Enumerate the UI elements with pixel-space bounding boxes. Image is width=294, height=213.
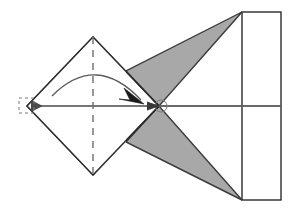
diagram-canvas bbox=[0, 0, 294, 213]
shaded-region-upper bbox=[126, 12, 242, 106]
origami-fold-figure: Origami fold diagram: square flap folded… bbox=[0, 0, 294, 213]
shaded-region-lower bbox=[126, 106, 242, 200]
